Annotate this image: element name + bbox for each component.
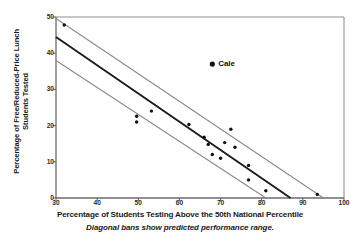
data-point-14 xyxy=(264,189,267,192)
data-point-5 xyxy=(202,135,205,138)
y-tick-label-10: 10 xyxy=(38,158,54,165)
y-axis-title-line1: Percentage of Free/Reduced-Price Lunch xyxy=(12,29,21,174)
data-point-11 xyxy=(219,156,222,159)
data-point-1 xyxy=(135,114,138,117)
data-point-7 xyxy=(211,153,214,156)
band-line-0 xyxy=(56,18,323,198)
x-tick-label-70: 70 xyxy=(211,199,231,206)
plot-axes xyxy=(56,17,344,198)
annotated-point-cale xyxy=(210,61,215,66)
regression-fit-line xyxy=(56,37,291,198)
data-point-13 xyxy=(247,178,250,181)
y-tick-label-30: 30 xyxy=(38,85,54,92)
x-tick-label-40: 40 xyxy=(87,199,107,206)
annotated-marker xyxy=(210,61,215,66)
y-tick-label-0: 0 xyxy=(38,194,54,201)
prediction-band-lines xyxy=(56,18,323,198)
data-point-2 xyxy=(135,120,138,123)
x-axis-title: Percentage of Students Testing Above the… xyxy=(0,210,360,219)
y-tick-label-20: 20 xyxy=(38,122,54,129)
plot-frame xyxy=(56,17,344,198)
data-point-9 xyxy=(223,141,226,144)
data-point-0 xyxy=(63,23,66,26)
data-point-8 xyxy=(229,128,232,131)
annotation-label-cale: Cale xyxy=(218,59,235,68)
data-point-6 xyxy=(207,143,210,146)
x-tick-label-90: 90 xyxy=(293,199,313,206)
y-axis-title-line2: Students Tested xyxy=(21,11,30,191)
chart-caption: Diagonal bans show predicted performance… xyxy=(0,223,360,232)
chart-figure: 30405060708090100 01020304050 Cale Perce… xyxy=(0,0,360,243)
data-point-3 xyxy=(150,109,153,112)
x-tick-label-100: 100 xyxy=(334,199,354,206)
fit-line xyxy=(56,37,291,198)
data-point-10 xyxy=(233,146,236,149)
scatter-plot-canvas xyxy=(0,0,360,243)
data-point-12 xyxy=(247,164,250,167)
y-tick-label-40: 40 xyxy=(38,49,54,56)
data-point-4 xyxy=(187,123,190,126)
x-tick-label-50: 50 xyxy=(128,199,148,206)
y-tick-label-50: 50 xyxy=(38,13,54,20)
x-tick-label-80: 80 xyxy=(252,199,272,206)
y-axis-title: Percentage of Free/Reduced-Price Lunch S… xyxy=(12,11,31,191)
data-point-15 xyxy=(316,193,319,196)
x-tick-label-60: 60 xyxy=(169,199,189,206)
band-line-1 xyxy=(56,60,266,198)
